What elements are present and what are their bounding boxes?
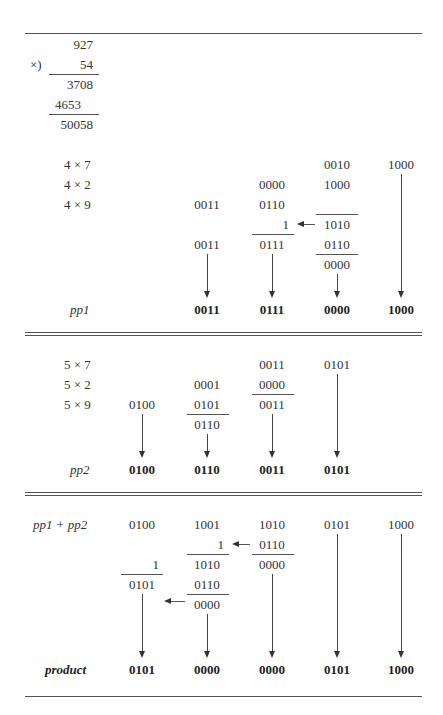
arrow-line [207,434,208,452]
decimal-result: 50058 [50,117,93,132]
arrow-down-icon [204,291,210,298]
bcd-digit: 1010 [182,557,232,572]
arrow-left-icon [297,221,304,227]
sum-rule [252,554,294,555]
bcd-digit: 0101 [182,397,232,412]
bcd-digit: 0101 [312,517,362,532]
bcd-digit: 0011 [247,357,297,372]
bcd-digit: 1000 [312,177,362,192]
arrow-line [207,254,208,292]
correction-rule [187,594,229,595]
pp2-row-label: 5 × 7 [64,357,91,372]
arrow-line [337,374,338,452]
bcd-digit: 0000 [247,557,297,572]
pp2-row-label: 5 × 2 [64,377,91,392]
pp2-result-digit: 0110 [182,462,232,477]
bcd-digit: 0000 [312,257,362,272]
arrow-down-icon [269,291,275,298]
bcd-digit: 0110 [247,197,297,212]
pp2-label: pp2 [70,462,90,477]
section-divider-2b [25,495,422,496]
pp1-result-digit: 0000 [312,302,362,317]
correction-digit: 0110 [182,577,232,592]
product-result-digit: 1000 [376,662,426,677]
carry-digit: 1 [117,557,159,572]
arrow-down-icon [204,451,210,458]
arrow-line [272,574,273,652]
arrow-left-icon [232,541,239,547]
bcd-digit: 0101 [117,577,167,592]
multiplicand: 927 [50,37,93,52]
bcd-digit: 0000 [182,597,232,612]
product-result-digit: 0101 [117,662,167,677]
correction-digit: 0110 [247,537,297,552]
sum-rule [187,414,229,415]
sum-rule [316,214,358,215]
bcd-digit: 0011 [182,197,232,212]
bcd-digit: 1000 [376,517,426,532]
bcd-digit: 1010 [312,217,362,232]
pp1-result-digit: 1000 [376,302,426,317]
arrow-line [401,174,402,292]
sum-rule [187,554,229,555]
sum-rule [252,394,294,395]
arrow-line [337,274,338,292]
pp1-label: pp1 [70,302,90,317]
bottom-rule [25,696,422,697]
arrow-down-icon [139,651,145,658]
pp2-result-digit: 0100 [117,462,167,477]
pp2-row-label: 5 × 9 [64,397,91,412]
pp1-result-digit: 0111 [247,302,297,317]
carry-digit: 1 [247,217,289,232]
bcd-digit: 0101 [312,357,362,372]
section-divider-1a [25,332,422,333]
bcd-digit: 0111 [247,237,297,252]
sum-label: pp1 + pp2 [33,517,87,532]
bcd-digit: 0000 [247,377,297,392]
section-divider-2a [25,492,422,493]
sum-rule [252,234,294,235]
bcd-digit: 1010 [247,517,297,532]
arrow-down-icon [398,291,404,298]
bcd-digit: 0011 [247,397,297,412]
bcd-digit: 0001 [182,377,232,392]
times-operator: ×) [30,57,42,72]
section-divider-1b [25,335,422,336]
arrow-down-icon [334,451,340,458]
pp1-row-label: 4 × 7 [64,157,91,172]
arrow-down-icon [269,451,275,458]
product-result-digit: 0000 [182,662,232,677]
arrow-line [401,534,402,652]
pp2-result-digit: 0011 [247,462,297,477]
product-label: product [45,662,86,677]
product-result-digit: 0000 [247,662,297,677]
correction-digit: 0110 [312,237,362,252]
arrow-line [207,614,208,652]
arrow-line [272,414,273,452]
arrow-down-icon [204,651,210,658]
arrow-left-icon [164,598,171,604]
correction-rule [316,254,358,255]
top-rule [25,33,422,34]
bcd-digit: 1001 [182,517,232,532]
bcd-digit: 0100 [117,517,167,532]
arrow-line [142,594,143,652]
arrow-line [142,414,143,452]
arrow-down-icon [269,651,275,658]
partial-product-1: 3708 [50,77,93,92]
arrow-line [337,534,338,652]
bcd-digit: 0110 [182,417,232,432]
arrow-line [272,254,273,292]
pp2-result-digit: 0101 [312,462,362,477]
bcd-digit: 0000 [247,177,297,192]
sum-rule [121,574,163,575]
pp1-row-label: 4 × 2 [64,177,91,192]
bcd-digit: 0010 [312,157,362,172]
decimal-rule-1 [49,74,99,75]
decimal-rule-2 [49,114,99,115]
arrow-down-icon [398,651,404,658]
multiplier: 54 [50,57,93,72]
pp1-row-label: 4 × 9 [64,197,91,212]
partial-product-2: 4653 [55,97,81,112]
bcd-digit: 0011 [182,237,232,252]
